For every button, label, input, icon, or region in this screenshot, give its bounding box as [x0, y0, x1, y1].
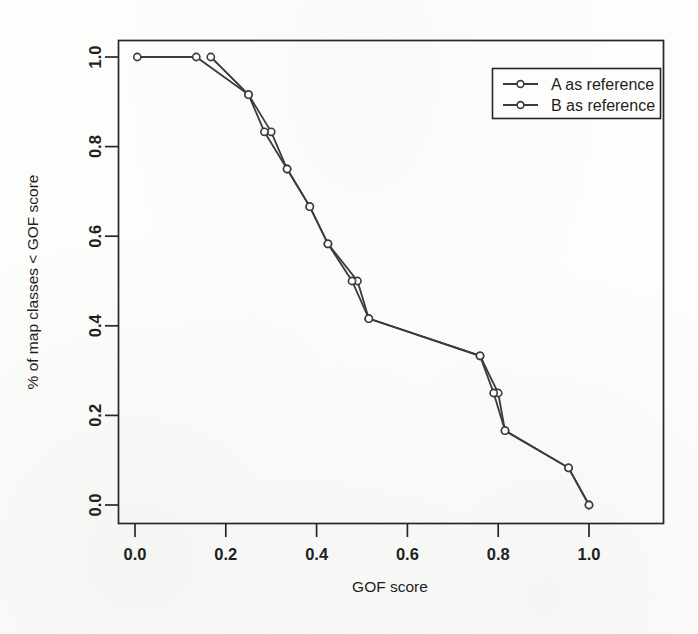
- series-line: [137, 57, 589, 505]
- x-tick-label: 0.8: [487, 545, 510, 563]
- series-1: [134, 53, 593, 508]
- x-tick-label: 0.4: [305, 545, 329, 563]
- x-axis-title: GOF score: [352, 578, 428, 595]
- data-point-marker: [134, 53, 141, 60]
- x-axis-ticks: [135, 523, 589, 537]
- legend-entry-label: A as reference: [551, 76, 654, 93]
- data-point-marker: [283, 165, 290, 172]
- data-series-group: [134, 53, 593, 508]
- data-point-marker: [348, 277, 355, 284]
- legend-marker-icon: [517, 81, 524, 88]
- x-tick-label: 0.6: [396, 545, 419, 563]
- data-point-marker: [365, 315, 372, 322]
- legend-marker-icon: [517, 102, 524, 109]
- y-axis-title: % of map classes < GOF score: [24, 175, 41, 390]
- data-point-marker: [585, 501, 592, 508]
- chart-legend[interactable]: A as referenceB as reference: [493, 69, 661, 119]
- data-point-marker: [501, 427, 508, 434]
- chart-canvas: 0.00.20.40.60.81.0 0.00.20.40.60.81.0 GO…: [0, 0, 698, 634]
- data-point-marker: [261, 128, 268, 135]
- y-tick-label: 1.0: [86, 46, 104, 69]
- y-tick-label: 0.2: [86, 404, 104, 427]
- data-point-marker: [193, 53, 200, 60]
- y-tick-label: 0.0: [86, 494, 104, 517]
- data-point-marker: [306, 203, 313, 210]
- x-axis-tick-labels: 0.00.20.40.60.81.0: [124, 545, 601, 563]
- y-axis-ticks: [105, 57, 118, 505]
- y-tick-label: 0.8: [86, 135, 104, 158]
- legend-entry-label: B as reference: [551, 97, 655, 114]
- x-tick-label: 0.0: [124, 545, 147, 563]
- data-point-marker: [245, 91, 252, 98]
- x-tick-label: 0.2: [214, 545, 237, 563]
- y-tick-label: 0.4: [86, 314, 104, 338]
- y-tick-label: 0.6: [86, 225, 104, 248]
- data-point-marker: [207, 53, 214, 60]
- x-tick-label: 1.0: [578, 545, 601, 563]
- data-point-marker: [490, 389, 497, 396]
- data-point-marker: [565, 464, 572, 471]
- y-axis-tick-labels: 0.00.20.40.60.81.0: [86, 46, 104, 517]
- chart-figure: 0.00.20.40.60.81.0 0.00.20.40.60.81.0 GO…: [0, 0, 698, 634]
- data-point-marker: [476, 352, 483, 359]
- data-point-marker: [324, 240, 331, 247]
